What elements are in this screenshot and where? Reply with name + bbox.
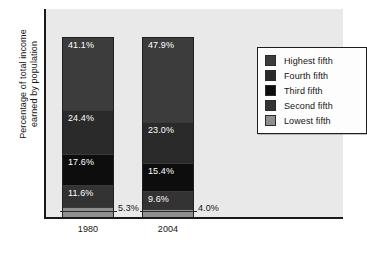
legend-swatch-third-fifth — [265, 85, 276, 96]
callout-label-2004-lowest-fifth: 4.0% — [198, 203, 219, 213]
legend-item-second-fifth[interactable]: Second fifth — [265, 98, 360, 113]
bar-1980-segment-second-fifth[interactable]: 11.6% — [63, 186, 113, 207]
x-axis-tick-2004: 2004 — [142, 224, 194, 234]
legend-swatch-second-fifth — [265, 100, 276, 111]
legend-label-lowest-fifth: Lowest fifth — [284, 116, 331, 126]
bar-1980-segment-third-fifth[interactable]: 17.6% — [63, 155, 113, 187]
legend-swatch-lowest-fifth — [265, 115, 276, 126]
legend-item-third-fifth[interactable]: Third fifth — [265, 83, 360, 98]
y-axis-line — [44, 9, 46, 219]
bar-1980-segment-lowest-fifth[interactable] — [63, 208, 113, 217]
callout-leader-1980 — [60, 211, 117, 212]
bar-1980-label-fourth-fifth: 24.4% — [68, 113, 94, 123]
bar-1980-label-highest-fifth: 41.1% — [68, 40, 94, 50]
legend-swatch-highest-fifth — [265, 55, 276, 66]
legend-label-second-fifth: Second fifth — [284, 101, 333, 111]
bar-2004-segment-fourth-fifth[interactable]: 23.0% — [143, 123, 193, 164]
y-axis-title-line-1: Percentage of total income — [18, 0, 29, 170]
bar-2004[interactable]: 47.9% 23.0% 15.4% 9.6% — [142, 37, 194, 218]
y-axis-title: Percentage of total income earned by pop… — [18, 0, 40, 170]
bar-2004-segment-highest-fifth[interactable]: 47.9% — [143, 38, 193, 123]
bar-2004-segment-second-fifth[interactable]: 9.6% — [143, 192, 193, 210]
legend-item-fourth-fifth[interactable]: Fourth fifth — [265, 68, 360, 83]
legend: Highest fifth Fourth fifth Third fifth S… — [257, 47, 367, 134]
bar-1980-segment-fourth-fifth[interactable]: 24.4% — [63, 111, 113, 155]
legend-swatch-fourth-fifth — [265, 70, 276, 81]
bar-1980[interactable]: 41.1% 24.4% 17.6% 11.6% — [62, 37, 114, 218]
bar-2004-segment-third-fifth[interactable]: 15.4% — [143, 164, 193, 192]
legend-item-highest-fifth[interactable]: Highest fifth — [265, 53, 360, 68]
x-axis-tick-1980: 1980 — [62, 224, 114, 234]
callout-label-1980-lowest-fifth: 5.3% — [118, 203, 139, 213]
bar-2004-label-third-fifth: 15.4% — [148, 166, 174, 176]
callout-leader-2004 — [140, 211, 197, 212]
legend-label-highest-fifth: Highest fifth — [284, 56, 333, 66]
bar-2004-label-second-fifth: 9.6% — [148, 194, 169, 204]
legend-label-third-fifth: Third fifth — [284, 86, 323, 96]
plot-area: 41.1% 24.4% 17.6% 11.6% 47.9% 23.0% 15.4… — [45, 9, 343, 218]
legend-item-lowest-fifth[interactable]: Lowest fifth — [265, 113, 360, 128]
bar-1980-label-third-fifth: 17.6% — [68, 157, 94, 167]
x-axis-line — [44, 217, 343, 219]
cropped-caption-strip — [18, 251, 325, 256]
bar-2004-label-highest-fifth: 47.9% — [148, 40, 174, 50]
legend-label-fourth-fifth: Fourth fifth — [284, 71, 328, 81]
bar-1980-segment-highest-fifth[interactable]: 41.1% — [63, 38, 113, 111]
bar-2004-label-fourth-fifth: 23.0% — [148, 125, 174, 135]
bar-1980-label-second-fifth: 11.6% — [68, 188, 93, 198]
y-axis-title-line-2: earned by population — [29, 0, 40, 170]
